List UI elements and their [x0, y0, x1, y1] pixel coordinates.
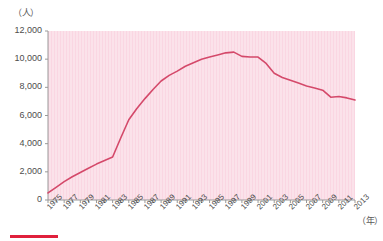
y-tick-label: 4,000: [2, 138, 42, 148]
y-tick-label: 8,000: [2, 81, 42, 91]
chart-figure: （人） （年） 12,00010,0008,0006,0004,0002,000…: [0, 0, 383, 241]
y-tick-label: 6,000: [2, 110, 42, 120]
y-tick-label: 12,000: [2, 25, 42, 35]
plot-area: 12,00010,0008,0006,0004,0002,0000 197519…: [0, 0, 383, 241]
legend-color-swatch: [10, 235, 58, 238]
chart-legend: [10, 231, 64, 241]
y-tick-label: 0: [2, 194, 42, 204]
y-tick-label: 10,000: [2, 53, 42, 63]
y-tick-label: 2,000: [2, 166, 42, 176]
